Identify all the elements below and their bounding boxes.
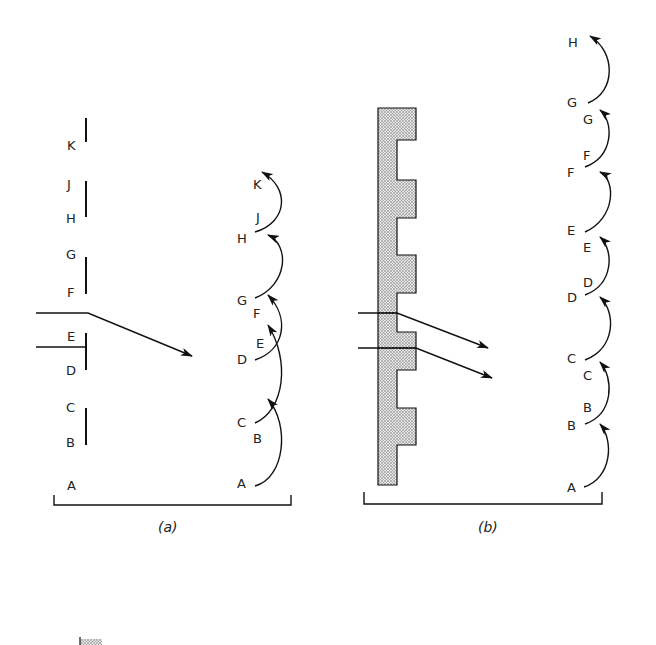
panel-b-right-label-d: D: [567, 290, 577, 305]
panel-a-bracket: [54, 495, 291, 505]
panel-a: KJHGFEDCBA KJHGFEDCBA (a): [36, 118, 291, 535]
panel-b-right-label-c: C: [567, 351, 576, 366]
panel-a-right-label-b: B: [253, 431, 262, 446]
panel-b-right-label-f: F: [583, 148, 590, 163]
panel-b-right-label-e: E: [583, 240, 591, 255]
panel-b-right-labels: HGGFFEEDDCCBBA: [567, 35, 593, 495]
panel-a-right-label-f: F: [253, 306, 260, 321]
panel-b-stepped-wall: [378, 108, 416, 485]
panel-b-right-label-g: G: [567, 95, 577, 110]
panel-a-left-label-f: F: [67, 285, 74, 300]
panel-a-right-label-d: D: [237, 352, 247, 367]
panel-a-left-label-h: H: [66, 211, 76, 226]
panel-a-caption: (a): [158, 519, 178, 535]
panel-b-right-label-h: H: [568, 35, 578, 50]
panel-a-left-labels: KJHGFEDCBA: [66, 138, 76, 493]
panel-a-right-labels: KJHGFEDCBA: [237, 177, 264, 491]
diagram-figure: KJHGFEDCBA KJHGFEDCBA (a): [0, 0, 656, 645]
panel-b-right-label-d: D: [583, 275, 593, 290]
legend-swatch: [80, 637, 102, 645]
panel-a-left-label-d: D: [66, 363, 76, 378]
diagram-canvas: KJHGFEDCBA KJHGFEDCBA (a): [0, 0, 656, 645]
panel-a-left-label-b: B: [66, 435, 75, 450]
panel-a-right-label-k: K: [253, 177, 262, 192]
panel-a-left-label-k: K: [67, 138, 76, 153]
panel-b: HGGFFEEDDCCBBA (b): [358, 35, 611, 535]
panel-a-right-label-j: J: [255, 210, 260, 225]
panel-b-caption: (b): [478, 519, 498, 535]
panel-b-right-label-c: C: [583, 368, 592, 383]
panel-a-left-label-a: A: [67, 478, 76, 493]
panel-a-right-label-h: H: [237, 231, 247, 246]
panel-b-right-label-b: B: [567, 418, 576, 433]
panel-a-right-label-c: C: [237, 415, 246, 430]
panel-a-left-label-g: G: [66, 247, 76, 262]
panel-a-right-label-g: G: [237, 293, 247, 308]
panel-b-right-label-g: G: [583, 112, 593, 127]
panel-b-right-label-b: B: [583, 400, 592, 415]
panel-a-left-label-j: J: [66, 177, 71, 192]
panel-b-right-label-f: F: [567, 165, 574, 180]
panel-a-right-label-e: E: [256, 336, 264, 351]
panel-a-left-label-c: C: [66, 400, 75, 415]
panel-b-right-label-a: A: [567, 480, 576, 495]
panel-a-incident-beam: [36, 313, 192, 356]
panel-b-arc-chain: [584, 36, 611, 487]
panel-b-right-label-e: E: [567, 223, 575, 238]
panel-a-right-label-a: A: [237, 476, 246, 491]
panel-a-left-label-e: E: [67, 329, 75, 344]
